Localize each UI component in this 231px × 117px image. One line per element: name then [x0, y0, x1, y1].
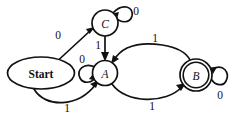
edge-label-B-to-A: 1	[152, 32, 158, 44]
node-C[interactable]: C	[92, 10, 118, 36]
node-C-label: C	[101, 18, 109, 30]
edge-B-to-A-curve	[114, 44, 190, 60]
edge-label-start-to-C: 0	[55, 29, 61, 41]
fsm-diagram-svg: 0 1 1 0 0 1	[0, 0, 231, 117]
edge-A-to-B-curve	[112, 84, 182, 99]
edge-label-C-self-loop: 0	[133, 5, 139, 17]
node-A[interactable]: A	[93, 61, 118, 86]
edge-A-to-B: 1	[112, 83, 186, 112]
edge-label-C-to-A: 1	[95, 39, 101, 51]
node-start[interactable]: Start	[8, 57, 75, 89]
edge-label-B-self-loop: 0	[217, 89, 223, 101]
node-A-label: A	[100, 68, 109, 80]
edge-label-A-self-loop: 0	[79, 53, 85, 65]
edge-label-A-to-B: 1	[149, 100, 155, 112]
edge-label-start-to-A: 1	[64, 102, 70, 114]
edge-B-to-A: 1	[111, 32, 190, 64]
node-B[interactable]: B	[180, 59, 212, 91]
edge-C-to-A: 1	[95, 36, 109, 62]
node-B-label: B	[192, 70, 199, 82]
node-start-label: Start	[29, 68, 54, 80]
fsm-diagram-canvas: 0 1 1 0 0 1	[0, 0, 231, 117]
